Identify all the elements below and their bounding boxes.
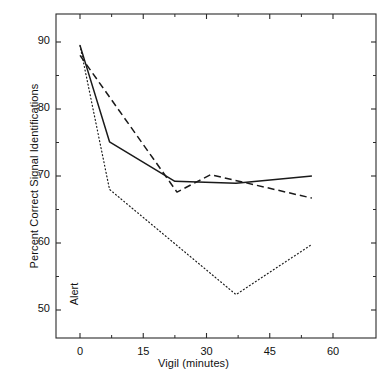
x-tick-label-0: 0 — [60, 345, 100, 357]
chart-figure: Percent Correct Signal Identifications V… — [0, 0, 387, 380]
series-line-dotted — [80, 45, 312, 294]
data-series-group — [80, 45, 312, 294]
line-chart-canvas — [0, 0, 387, 380]
x-tick-label-15: 15 — [123, 345, 163, 357]
alert-annotation: Alert — [68, 272, 80, 316]
x-tick-label-60: 60 — [313, 345, 353, 357]
y-tick-label-50: 50 — [16, 302, 50, 314]
x-axis-title: Vigil (minutes) — [0, 357, 387, 369]
series-line-dashed — [80, 55, 312, 198]
y-tick-label-80: 80 — [16, 101, 50, 113]
x-tick-label-30: 30 — [187, 345, 227, 357]
x-tick-label-45: 45 — [250, 345, 290, 357]
y-tick-label-70: 70 — [16, 168, 50, 180]
y-tick-label-60: 60 — [16, 235, 50, 247]
y-tick-label-90: 90 — [16, 34, 50, 46]
series-line-solid — [80, 45, 312, 183]
